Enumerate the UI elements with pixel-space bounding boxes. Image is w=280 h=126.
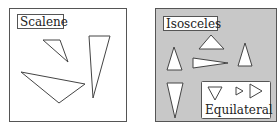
isosceles-panel: Isosceles Equilateral (156, 9, 277, 122)
equilateral-panel: Equilateral (202, 82, 273, 119)
equilateral-label: Equilateral (205, 103, 273, 117)
scalene-label: Scalene (20, 15, 68, 29)
isosceles-label: Isosceles (166, 17, 221, 31)
scalene-panel: Scalene (10, 9, 127, 122)
triangle-classification-diagram: Scalene Isosceles Equilateral (0, 0, 280, 126)
